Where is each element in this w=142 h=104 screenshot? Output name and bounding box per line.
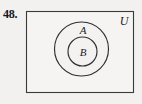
venn-diagram-figure: 48. U A B [0, 0, 142, 104]
set-a-label: A [79, 24, 87, 36]
universal-set-label: U [120, 14, 130, 28]
venn-diagram-canvas: U A B [0, 0, 142, 104]
set-b-label: B [80, 46, 87, 58]
